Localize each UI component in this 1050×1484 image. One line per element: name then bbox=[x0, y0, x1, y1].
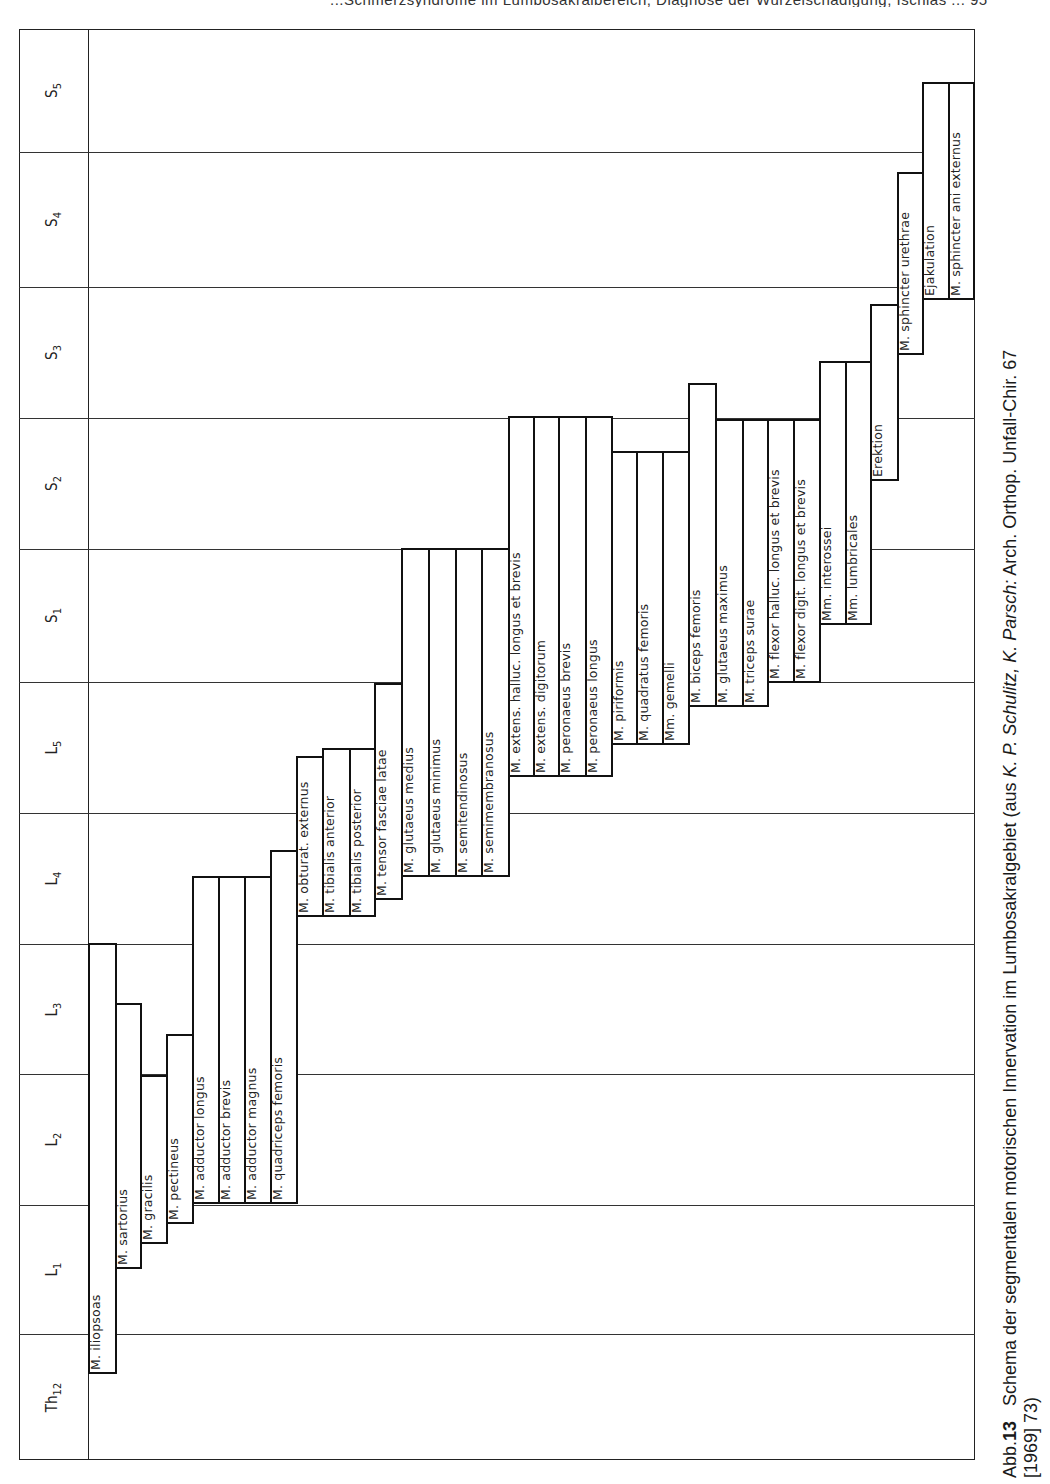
muscle-bar: M. sphincter urethrae bbox=[897, 172, 924, 355]
muscle-bar: M. pectineus bbox=[166, 1034, 194, 1224]
muscle-label: M. adductor brevis bbox=[218, 1080, 233, 1200]
muscle-label: Mm. gemelli bbox=[662, 662, 677, 741]
caption-line-2: [1969] 73) bbox=[1021, 8, 1042, 1478]
muscle-bar: M. tensor fasciae latae bbox=[374, 683, 403, 900]
muscle-label: M. peronaeus brevis bbox=[558, 643, 573, 773]
caption-text: Schema der segmentalen motorischen Inner… bbox=[1000, 783, 1020, 1406]
muscle-bar: Erektion bbox=[870, 304, 899, 481]
muscle-label: M. gracilis bbox=[140, 1175, 155, 1240]
muscle-label: M. pectineus bbox=[166, 1138, 181, 1220]
muscle-label: M. tibialis anterior bbox=[322, 796, 337, 913]
segment-label-text: Th12 bbox=[43, 1382, 64, 1411]
muscle-bar: M. adductor magnus bbox=[244, 876, 272, 1204]
muscle-label: M. sphincter urethrae bbox=[897, 212, 912, 351]
muscle-label: M. sartorius bbox=[115, 1189, 130, 1265]
muscle-label: M. piriformis bbox=[611, 661, 626, 741]
muscle-bar: M. extens. halluc. longus et brevis bbox=[508, 416, 535, 777]
muscle-bar: M. obturat. externus bbox=[296, 756, 324, 917]
muscle-label: M. quadriceps femoris bbox=[270, 1057, 285, 1200]
figure-caption: Abb.13 Schema der segmentalen motorische… bbox=[1000, 8, 1042, 1478]
segment-label-text: S3 bbox=[43, 345, 64, 360]
segment-label-s1: S1 bbox=[19, 549, 88, 682]
muscle-label: M. biceps femoris bbox=[688, 589, 703, 703]
muscle-label: M. peronaeus longus bbox=[585, 639, 600, 773]
caption-number: 13 bbox=[1000, 1421, 1020, 1441]
muscle-label: M. adductor magnus bbox=[244, 1068, 259, 1200]
muscle-bar: M. sartorius bbox=[115, 1003, 142, 1269]
muscle-label: M. tibialis posterior bbox=[349, 789, 364, 913]
caption-line-1: Abb.13 Schema der segmentalen motorische… bbox=[1000, 8, 1021, 1478]
muscle-label: M. semitendinosus bbox=[455, 753, 470, 873]
segment-label-th12: Th12 bbox=[19, 1334, 88, 1460]
caption-authors: K. P. Schulitz, K. Parsch: bbox=[1000, 580, 1020, 778]
segment-label-text: L2 bbox=[43, 1133, 64, 1147]
muscle-label: M. extens. halluc. longus et brevis bbox=[508, 552, 523, 773]
muscle-bar: Mm. gemelli bbox=[662, 451, 690, 745]
muscle-label: Mm. interossei bbox=[819, 527, 834, 621]
muscle-label: M. obturat. externus bbox=[296, 781, 311, 913]
segment-boundary-line bbox=[19, 1334, 975, 1335]
muscle-label: M. flexor halluc. longus et brevis bbox=[767, 469, 782, 679]
muscle-label: M. glutaeus maximus bbox=[715, 565, 730, 703]
muscle-label: M. triceps surae bbox=[742, 600, 757, 703]
segment-label-s3: S3 bbox=[19, 287, 88, 418]
muscle-bar: M. iliopsoas bbox=[88, 943, 117, 1374]
caption-source: Arch. Orthop. Unfall-Chir. 67 bbox=[1000, 350, 1020, 576]
muscle-bar: M. sphincter ani externus bbox=[948, 82, 975, 300]
segment-label-text: S2 bbox=[43, 476, 64, 491]
muscle-bar: M. triceps surae bbox=[742, 419, 769, 707]
segment-boundary-line bbox=[19, 944, 975, 945]
muscle-label: M. iliopsoas bbox=[88, 1295, 103, 1370]
muscle-bar: Mm. lumbricales bbox=[845, 361, 872, 625]
muscle-label: M. quadratus femoris bbox=[636, 604, 651, 741]
muscle-label: Erektion bbox=[870, 424, 885, 477]
segment-label-text: L3 bbox=[43, 1002, 64, 1016]
muscle-bar: M. flexor halluc. longus et brevis bbox=[767, 419, 795, 683]
muscle-bar: M. quadriceps femoris bbox=[270, 850, 298, 1204]
muscle-label: M. glutaeus medius bbox=[401, 747, 416, 873]
muscle-bar: Ejakulation bbox=[922, 82, 950, 300]
muscle-bar: M. semimembranosus bbox=[481, 548, 510, 877]
segment-label-s4: S4 bbox=[19, 152, 88, 287]
muscle-label: M. tensor fasciae latae bbox=[374, 749, 389, 896]
segment-boundary-line bbox=[19, 152, 975, 153]
segment-label-text: L5 bbox=[43, 741, 64, 755]
muscle-bar: M. quadratus femoris bbox=[636, 451, 664, 745]
segment-label-text: L4 bbox=[43, 872, 64, 886]
segment-label-s2: S2 bbox=[19, 418, 88, 549]
muscle-label: M. glutaeus minimus bbox=[428, 739, 443, 873]
segment-label-l4: L4 bbox=[19, 813, 88, 944]
muscle-label: M. adductor longus bbox=[192, 1076, 207, 1200]
muscle-bar: M. peronaeus longus bbox=[585, 416, 613, 777]
caption-prefix: Abb. bbox=[1000, 1441, 1020, 1478]
muscle-label: M. sphincter ani externus bbox=[948, 132, 963, 296]
segment-label-l5: L5 bbox=[19, 682, 88, 813]
muscle-bar: M. biceps femoris bbox=[688, 383, 717, 707]
segment-label-l3: L3 bbox=[19, 944, 88, 1074]
segment-label-text: S4 bbox=[43, 212, 64, 227]
running-header-cut: ...Schmerzsyndrome im Lumbosakralbereich… bbox=[330, 0, 1050, 7]
muscle-bar: M. flexor digit. longus et brevis bbox=[793, 419, 821, 683]
muscle-bar: M. adductor longus bbox=[192, 876, 220, 1204]
muscle-bar: M. peronaeus brevis bbox=[558, 416, 587, 777]
muscle-bar: M. adductor brevis bbox=[218, 876, 246, 1204]
segment-boundary-line bbox=[19, 287, 975, 288]
segment-label-text: S1 bbox=[43, 608, 64, 623]
muscle-label: M. extens. digitorum bbox=[533, 640, 548, 773]
segment-label-l1: L1 bbox=[19, 1205, 88, 1334]
muscle-bar: M. glutaeus maximus bbox=[715, 419, 744, 707]
muscle-bar: M. glutaeus minimus bbox=[428, 548, 457, 877]
muscle-bar: M. semitendinosus bbox=[455, 548, 483, 877]
muscle-label: M. semimembranosus bbox=[481, 732, 496, 873]
muscle-bar: M. extens. digitorum bbox=[533, 416, 560, 777]
muscle-label: Mm. lumbricales bbox=[845, 515, 860, 621]
muscle-label: Ejakulation bbox=[922, 225, 937, 296]
muscle-bar: M. glutaeus medius bbox=[401, 548, 430, 877]
muscle-bar: M. tibialis anterior bbox=[322, 748, 351, 917]
muscle-bar: M. piriformis bbox=[611, 451, 638, 745]
muscle-bar: M. gracilis bbox=[140, 1075, 168, 1244]
segment-label-text: S5 bbox=[43, 83, 64, 98]
muscle-label: M. flexor digit. longus et brevis bbox=[793, 479, 808, 679]
segment-label-text: L1 bbox=[43, 1263, 64, 1277]
muscle-bar: Mm. interossei bbox=[819, 361, 847, 625]
